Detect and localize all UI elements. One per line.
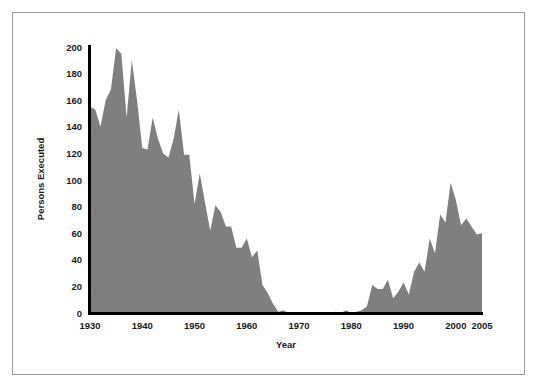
y-tick-labels: 020406080100120140160180200 [66,42,82,319]
x-tick-label: 1970 [288,320,309,331]
x-tick-label: 1980 [341,320,362,331]
y-tick-label: 180 [66,68,82,79]
area-series-path [90,48,482,313]
x-tick-labels: 193019401950196019701980199020002005 [79,320,493,331]
y-tick-label: 120 [66,148,82,159]
x-tick-label: 1960 [236,320,257,331]
y-tick-label: 20 [71,281,82,292]
x-tick-label: 1950 [184,320,205,331]
x-tick-label: 1940 [132,320,153,331]
y-tick-label: 80 [71,201,82,212]
figure-container: 020406080100120140160180200 193019401950… [0,0,537,387]
y-tick-label: 40 [71,254,82,265]
area-series [90,48,482,313]
y-tick-label: 200 [66,42,82,53]
y-axis-title: Persons Executed [35,138,46,221]
area-chart: 020406080100120140160180200 193019401950… [0,0,537,387]
x-tick-label: 2000 [445,320,466,331]
y-tick-label: 100 [66,175,82,186]
y-tick-label: 60 [71,228,82,239]
x-tick-label: 1990 [393,320,414,331]
x-tick-label: 2005 [471,320,493,331]
plot-area: 020406080100120140160180200 193019401950… [0,0,537,387]
y-tick-label: 0 [77,308,82,319]
y-tick-label: 160 [66,95,82,106]
x-axis-title: Year [276,339,296,350]
y-tick-label: 140 [66,121,82,132]
x-tick-label: 1930 [79,320,100,331]
